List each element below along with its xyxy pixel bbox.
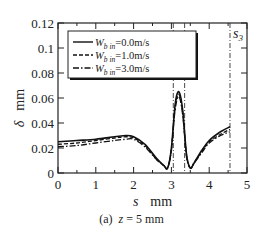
- x-tick-label: 0: [55, 177, 62, 192]
- caption-label: (a): [99, 212, 112, 226]
- figure-caption: (a) z = 5 mm: [0, 212, 263, 227]
- series-line-3: [58, 97, 230, 169]
- caption-value: = 5 mm: [123, 212, 163, 226]
- x-axis-label: smm: [133, 194, 172, 209]
- x-tick-label: 1: [93, 177, 100, 192]
- y-tick-label: 0.06: [31, 91, 54, 106]
- y-tick-label: 0.04: [31, 116, 54, 131]
- y-tick-label: 0.08: [31, 66, 54, 81]
- line-chart: 01234500.020.040.060.080.10.12smmδmms1s2…: [0, 0, 263, 244]
- x-tick-label: 4: [206, 177, 213, 192]
- x-tick-label: 2: [130, 177, 137, 192]
- y-tick-label: 0.12: [31, 16, 54, 31]
- series-line-2: [58, 94, 230, 169]
- y-tick-label: 0.02: [31, 141, 54, 156]
- y-tick-label: 0.1: [38, 41, 54, 56]
- series-line-1: [58, 92, 230, 169]
- y-axis-label: δmm: [12, 89, 27, 127]
- reference-label-s3: s3: [233, 26, 243, 43]
- y-tick-label: 0: [48, 166, 55, 181]
- x-tick-label: 5: [244, 177, 251, 192]
- plot-area: 01234500.020.040.060.080.10.12smmδmms1s2…: [12, 16, 250, 210]
- x-tick-label: 3: [168, 177, 175, 192]
